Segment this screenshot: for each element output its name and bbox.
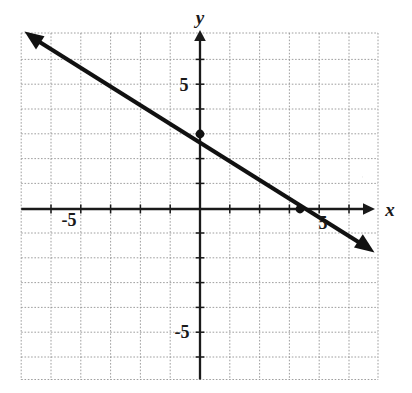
line-arrowhead-lower-right: [354, 234, 375, 252]
axes: [21, 30, 375, 380]
y-axis: [194, 30, 206, 380]
y-axis-arrowhead: [194, 30, 206, 41]
x-axis-name-label: x: [384, 199, 395, 220]
x-tick-label-negative-five: -5: [62, 210, 77, 230]
y-axis-name-label: y: [194, 7, 205, 28]
point-y-intercept: [196, 130, 205, 139]
coordinate-plane-figure: y x 5 -5 5 -5: [0, 0, 412, 393]
y-tick-label-positive-five: 5: [180, 75, 189, 95]
axis-labels: y x: [194, 7, 395, 220]
graph-canvas: y x 5 -5 5 -5: [0, 0, 412, 393]
y-tick-label-negative-five: -5: [175, 322, 190, 342]
line-arrowhead-upper-left: [25, 32, 45, 50]
x-axis-arrowhead: [363, 203, 375, 215]
point-x-intercept: [296, 205, 305, 214]
x-tick-label-positive-five: 5: [319, 213, 328, 233]
